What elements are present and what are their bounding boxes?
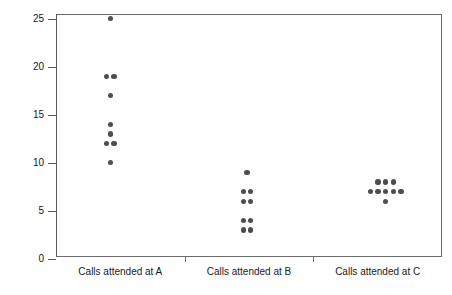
x-axis-label-b: Calls attended at B: [185, 266, 314, 278]
y-tick-label-wrap: 10: [10, 158, 44, 168]
y-tick-label-wrap: 25: [10, 14, 44, 24]
y-tick-label: 5: [16, 206, 44, 216]
y-tick-label: 10: [16, 158, 44, 168]
y-tick-label: 25: [16, 14, 44, 24]
y-tick-label-wrap: 0: [10, 254, 44, 264]
y-tick-mark: [48, 163, 56, 164]
plot-area: [56, 14, 442, 257]
y-tick-mark: [48, 67, 56, 68]
x-tick-mark: [313, 257, 314, 262]
y-tick-label-wrap: 20: [10, 62, 44, 72]
y-tick-label-wrap: 15: [10, 110, 44, 120]
x-axis-label-c: Calls attended at C: [313, 266, 442, 278]
y-tick-label-wrap: 5: [10, 206, 44, 216]
y-tick-label: 20: [16, 62, 44, 72]
y-tick-label: 15: [16, 110, 44, 120]
x-tick-mark: [185, 257, 186, 262]
y-tick-mark: [48, 211, 56, 212]
y-axis-line: [56, 14, 57, 257]
y-tick-mark: [48, 115, 56, 116]
dot-plot-chart: Number of calls attended 0510152025 Call…: [0, 0, 452, 295]
x-axis-label-a: Calls attended at A: [56, 266, 185, 278]
y-tick-mark: [48, 259, 56, 260]
y-tick-mark: [48, 19, 56, 20]
y-tick-label: 0: [16, 254, 44, 264]
